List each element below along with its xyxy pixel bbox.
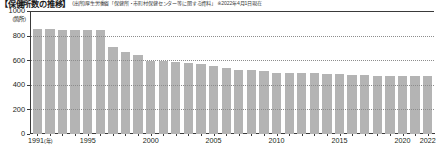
x-axis-tick-label: 2005 (206, 137, 222, 145)
x-axis-tick (390, 134, 391, 136)
y-axis-tick-label: 800 (13, 32, 25, 39)
gridline (31, 109, 434, 111)
x-axis-tick (113, 134, 114, 136)
bar (83, 30, 92, 134)
bar (96, 30, 105, 134)
x-axis: 1991(年)1995200020052010201520202022 (31, 134, 434, 150)
x-axis-tick (377, 134, 378, 136)
x-axis-tick (125, 134, 126, 136)
y-axis-tick-label: 0 (21, 130, 25, 137)
bar (159, 61, 168, 134)
x-axis-tick (163, 134, 164, 136)
x-axis-tick (75, 134, 76, 136)
bars-container (31, 11, 434, 134)
bar (171, 62, 180, 134)
bar (133, 55, 142, 134)
bar (196, 64, 205, 134)
x-axis-tick-label: 1991(年) (28, 137, 53, 146)
chart-header: 【保健所数の推移】(出所)厚生労働省「保健所・市町村保健センター等に関する資料」… (0, 0, 440, 8)
bar (360, 75, 369, 134)
x-axis-tick (50, 134, 51, 136)
y-axis-tick-label: 400 (13, 81, 25, 88)
x-axis-tick-label: 2015 (332, 137, 348, 145)
x-axis-tick (327, 134, 328, 136)
bar (335, 74, 344, 134)
y-axis-tick (27, 85, 30, 86)
x-axis-tick-label: 2000 (143, 137, 159, 145)
bar (45, 29, 54, 134)
source-note: (出所)厚生労働省「保健所・市町村保健センター等に関する資料」 ※2022年4月… (70, 0, 261, 6)
gridline (31, 85, 434, 87)
x-axis-tick (226, 134, 227, 136)
bar (272, 73, 281, 134)
bar (209, 66, 218, 134)
x-axis-tick (264, 134, 265, 136)
bar (234, 70, 243, 134)
y-axis-tick (27, 134, 30, 135)
x-axis-tick (100, 134, 101, 136)
x-axis-tick (138, 134, 139, 136)
x-axis-tick (251, 134, 252, 136)
bar (184, 63, 193, 134)
x-axis-tick (62, 134, 63, 136)
x-axis-tick (188, 134, 189, 136)
bar (247, 70, 256, 134)
y-axis-tick (27, 60, 30, 61)
x-axis-tick (201, 134, 202, 136)
y-axis-tick-label: 600 (13, 57, 25, 64)
y-axis-tick-label: 1000 (9, 7, 25, 14)
x-axis-tick (302, 134, 303, 136)
bar (58, 30, 67, 134)
x-axis-tick-label: 2022 (420, 137, 436, 145)
bar (297, 73, 306, 134)
y-axis-unit-label: (箇所) (12, 17, 26, 22)
bar (33, 29, 42, 134)
y-axis-tick (27, 109, 30, 110)
x-axis-tick-label: 2010 (269, 137, 285, 145)
x-axis-unit-label: (年) (44, 138, 53, 144)
x-axis-tick (289, 134, 290, 136)
y-axis-tick (27, 11, 30, 12)
gridline (31, 60, 434, 62)
gridline (31, 36, 434, 38)
bar (259, 71, 268, 134)
y-axis: (箇所) 02004006008001000 (0, 0, 30, 150)
x-axis-tick (415, 134, 416, 136)
y-axis-tick-label: 200 (13, 106, 25, 113)
bar (121, 52, 130, 134)
bar (285, 73, 294, 134)
x-axis-tick (365, 134, 366, 136)
bar (146, 61, 155, 134)
bar (70, 30, 79, 134)
x-axis-tick-label: 2020 (395, 137, 411, 145)
x-axis-tick (314, 134, 315, 136)
x-axis-tick (176, 134, 177, 136)
x-axis-tick (239, 134, 240, 136)
bar (322, 74, 331, 134)
x-axis-tick (352, 134, 353, 136)
bar (310, 73, 319, 134)
chart-page: 【保健所数の推移】(出所)厚生労働省「保健所・市町村保健センター等に関する資料」… (0, 0, 440, 150)
x-axis-tick-label: 1995 (80, 137, 96, 145)
bar (222, 68, 231, 134)
y-axis-tick (27, 36, 30, 37)
